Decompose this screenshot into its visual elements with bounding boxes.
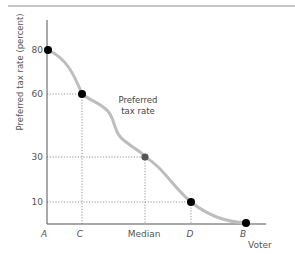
curve-annotation-line2: tax rate: [121, 106, 155, 116]
x-label-median: Median: [128, 229, 161, 239]
y-tick-10: 10: [32, 197, 44, 207]
point-b: [242, 219, 250, 227]
point-c: [78, 90, 86, 98]
y-tick-80: 80: [32, 45, 44, 55]
point-d: [187, 198, 195, 206]
point-median: [141, 153, 148, 160]
chart: 80 60 30 10 Preferred tax rate (percent)…: [0, 0, 295, 254]
y-tick-30: 30: [32, 152, 44, 162]
x-label-c: C: [77, 229, 84, 239]
x-axis-label: Voter: [248, 240, 272, 250]
point-a: [44, 46, 52, 54]
preferred-tax-rate-curve: [48, 50, 246, 223]
guide-lines: [47, 94, 191, 224]
y-axis-label: Preferred tax rate (percent): [15, 13, 25, 130]
x-label-a: A: [40, 229, 47, 239]
y-tick-60: 60: [32, 89, 44, 99]
x-label-d: D: [187, 229, 194, 239]
curve-annotation-line1: Preferred: [118, 95, 157, 105]
x-label-b: B: [240, 229, 246, 239]
